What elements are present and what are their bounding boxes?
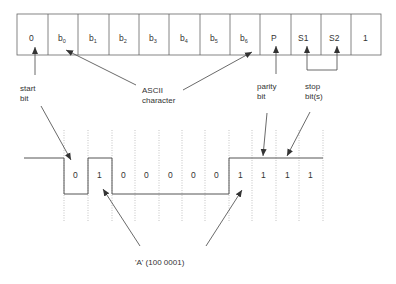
waveform-bit-values: 0 1 0 0 0 0 0 1 1 1 1: [73, 170, 313, 180]
cell-b6: b6: [240, 33, 248, 44]
start-bit-wave-arrow: [41, 106, 71, 160]
ascii-label-2: character: [142, 96, 176, 105]
ascii-label-1: ASCII: [142, 86, 163, 95]
serial-frame-diagram: 0 b0 b1 b2 b3 b4 b5 b6 P S1 S2 1 start b…: [0, 0, 396, 284]
char-a-label: 'A' (100 0001): [135, 258, 185, 267]
frame-cell-labels: 0 b0 b1 b2 b3 b4 b5 b6 P S1 S2 1: [29, 33, 368, 44]
signal-waveform: [24, 158, 323, 194]
cell-b5: b5: [210, 33, 218, 44]
parity-label-2: bit: [257, 92, 266, 101]
bit-value: 1: [285, 170, 290, 180]
cell-stop2: S2: [329, 33, 340, 43]
bit-value: 0: [168, 170, 173, 180]
cell-b3: b3: [149, 33, 157, 44]
parity-wave-arrow: [263, 113, 267, 156]
cell-b2: b2: [119, 33, 127, 44]
stop-label-1: stop: [305, 82, 321, 91]
bit-value: 0: [121, 170, 126, 180]
bit-value: 1: [261, 170, 266, 180]
cell-b0: b0: [58, 33, 66, 44]
frame-boxes: [17, 14, 381, 55]
cell-b4: b4: [180, 33, 188, 44]
cell-b1: b1: [89, 33, 97, 44]
char-a-right-arrow: [206, 190, 242, 246]
start-bit-label-1: start: [20, 84, 36, 93]
bit-value: 1: [308, 170, 313, 180]
char-a-left-arrow: [103, 189, 140, 246]
start-bit-label-2: bit: [20, 94, 29, 103]
bit-value: 1: [238, 170, 243, 180]
stop-label-2: bit(s): [305, 92, 323, 101]
bit-value: 0: [214, 170, 219, 180]
ascii-right-arrow: [183, 52, 252, 90]
cell-parity: P: [271, 33, 277, 43]
cell-stop1: S1: [298, 33, 309, 43]
stop-wave-arrow: [287, 112, 310, 156]
bit-value: 0: [191, 170, 196, 180]
cell-idle: 1: [363, 33, 368, 43]
bit-value: 0: [73, 170, 78, 180]
bit-value: 0: [144, 170, 149, 180]
parity-label-1: parity: [257, 82, 277, 91]
cell-start: 0: [29, 33, 34, 43]
bit-value: 1: [97, 170, 102, 180]
